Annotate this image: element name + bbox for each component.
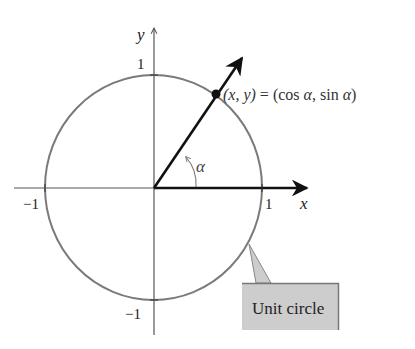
callout-label: Unit circle [252,299,324,318]
x-tick-neg-label: −1 [23,196,39,212]
point-rhs-close: ) [351,86,356,104]
y-axis-label: y [135,25,145,44]
unit-circle-diagram: y x 1 −1 1 −1 α (x, y) = (cos α, sin α) … [0,0,415,349]
angle-label: α [196,157,206,176]
point-sep: , sin [312,86,343,103]
point-rhs-open: (cos [273,86,304,104]
point-on-circle [212,90,221,99]
y-tick-neg-label: −1 [125,306,141,322]
x-tick-pos-label: 1 [265,196,273,212]
angle-arc [186,157,196,187]
point-lhs: (x, y) [223,86,256,104]
x-axis-label: x [299,194,308,213]
callout-pointer [249,244,271,283]
point-eq: = [256,86,273,103]
point-coordinates-label: (x, y) = (cos α, sin α) [223,86,356,104]
y-tick-pos-label: 1 [137,56,145,72]
